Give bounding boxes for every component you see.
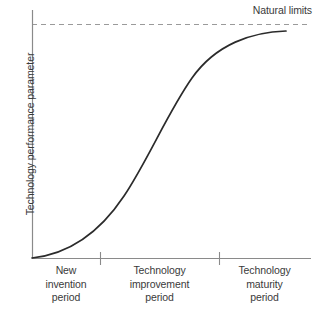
s-curve-path [32, 31, 286, 258]
segment-label-line: period [145, 291, 174, 305]
segment-label-line: New [56, 264, 77, 278]
segment-label-line: improvement [130, 278, 190, 292]
segment-label-technology-improvement-period: Technology improvement period [100, 264, 219, 310]
y-axis-label: Technology performance parameter [20, 10, 40, 258]
x-axis-segment-labels: New invention period Technology improvem… [32, 264, 310, 310]
segment-label-new-invention-period: New invention period [32, 264, 100, 310]
segment-label-line: Technology [133, 264, 185, 278]
segment-label-line: period [52, 291, 81, 305]
natural-limits-label: Natural limits [253, 4, 312, 17]
technology-s-curve-figure: Technology performance parameter Natural… [0, 0, 328, 312]
segment-label-technology-maturity-period: Technology maturity period [219, 264, 310, 310]
segment-label-line: period [250, 291, 279, 305]
segment-label-line: maturity [246, 278, 283, 292]
segment-label-line: Technology [238, 264, 290, 278]
segment-label-line: invention [45, 278, 86, 292]
